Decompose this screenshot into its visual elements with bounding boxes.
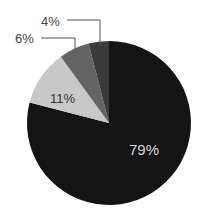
- label-6pct: 6%: [15, 31, 34, 46]
- leader-line-6pct: [41, 38, 75, 52]
- label-79pct: 79%: [129, 141, 159, 158]
- label-4pct: 4%: [41, 14, 60, 29]
- pie-chart: 4% 6% 11% 79%: [0, 0, 206, 223]
- pie-slices: [27, 41, 191, 205]
- leader-line-4pct: [67, 20, 100, 46]
- label-11pct: 11%: [50, 91, 75, 106]
